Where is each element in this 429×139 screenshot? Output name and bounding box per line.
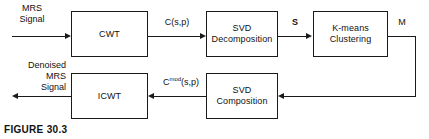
block-cwt-label: CWT [99,29,120,40]
figure-caption: FIGURE 30.3 [4,124,67,135]
block-kmeans-clustering: K-means Clustering [313,11,388,57]
wire-icwt-to-output [18,96,71,97]
signal-label-svdcomp-tail: (s,p) [181,77,199,87]
arrowhead-output-icon [12,93,18,99]
wire-kmeans-out-horizontal [388,36,416,37]
block-svd-composition: SVD Composition [206,73,278,119]
arrowhead-into-svd-composition-icon [278,93,284,99]
block-icwt-label: ICWT [98,91,121,102]
wire-input-to-cwt [12,36,66,37]
figure-block-diagram: MRS Signal CWT C(s,p) SVD Decomposition … [0,0,429,139]
signal-label-svdcomp-to-icwt: Cmod(s,p) [155,77,207,88]
signal-label-cwt-to-svd: C(s,p) [152,17,202,28]
arrowhead-into-kmeans-icon [306,33,312,39]
signal-label-output: Denoised MRS Signal [6,60,66,93]
block-cwt: CWT [71,11,148,57]
wire-feedback-into-svd-composition [284,96,416,97]
block-svd-decomposition-label: SVD Decomposition [212,23,273,45]
signal-label-kmeans-out: M [392,17,412,28]
wire-svd-composition-to-icwt [154,96,206,97]
signal-label-svd-to-kmeans: S [283,17,307,28]
block-svd-decomposition: SVD Decomposition [206,11,278,57]
wire-svd-decomposition-to-kmeans [278,36,307,37]
signal-label-svdcomp-superscript: mod [169,76,181,82]
block-svd-composition-label: SVD Composition [216,85,267,107]
block-icwt: ICWT [71,73,148,119]
wire-cwt-to-svd-decomposition [148,36,201,37]
wire-feedback-vertical [415,36,416,96]
signal-label-input: MRS Signal [6,3,58,25]
block-kmeans-clustering-label: K-means Clustering [330,23,372,45]
arrowhead-into-icwt-icon [148,93,154,99]
